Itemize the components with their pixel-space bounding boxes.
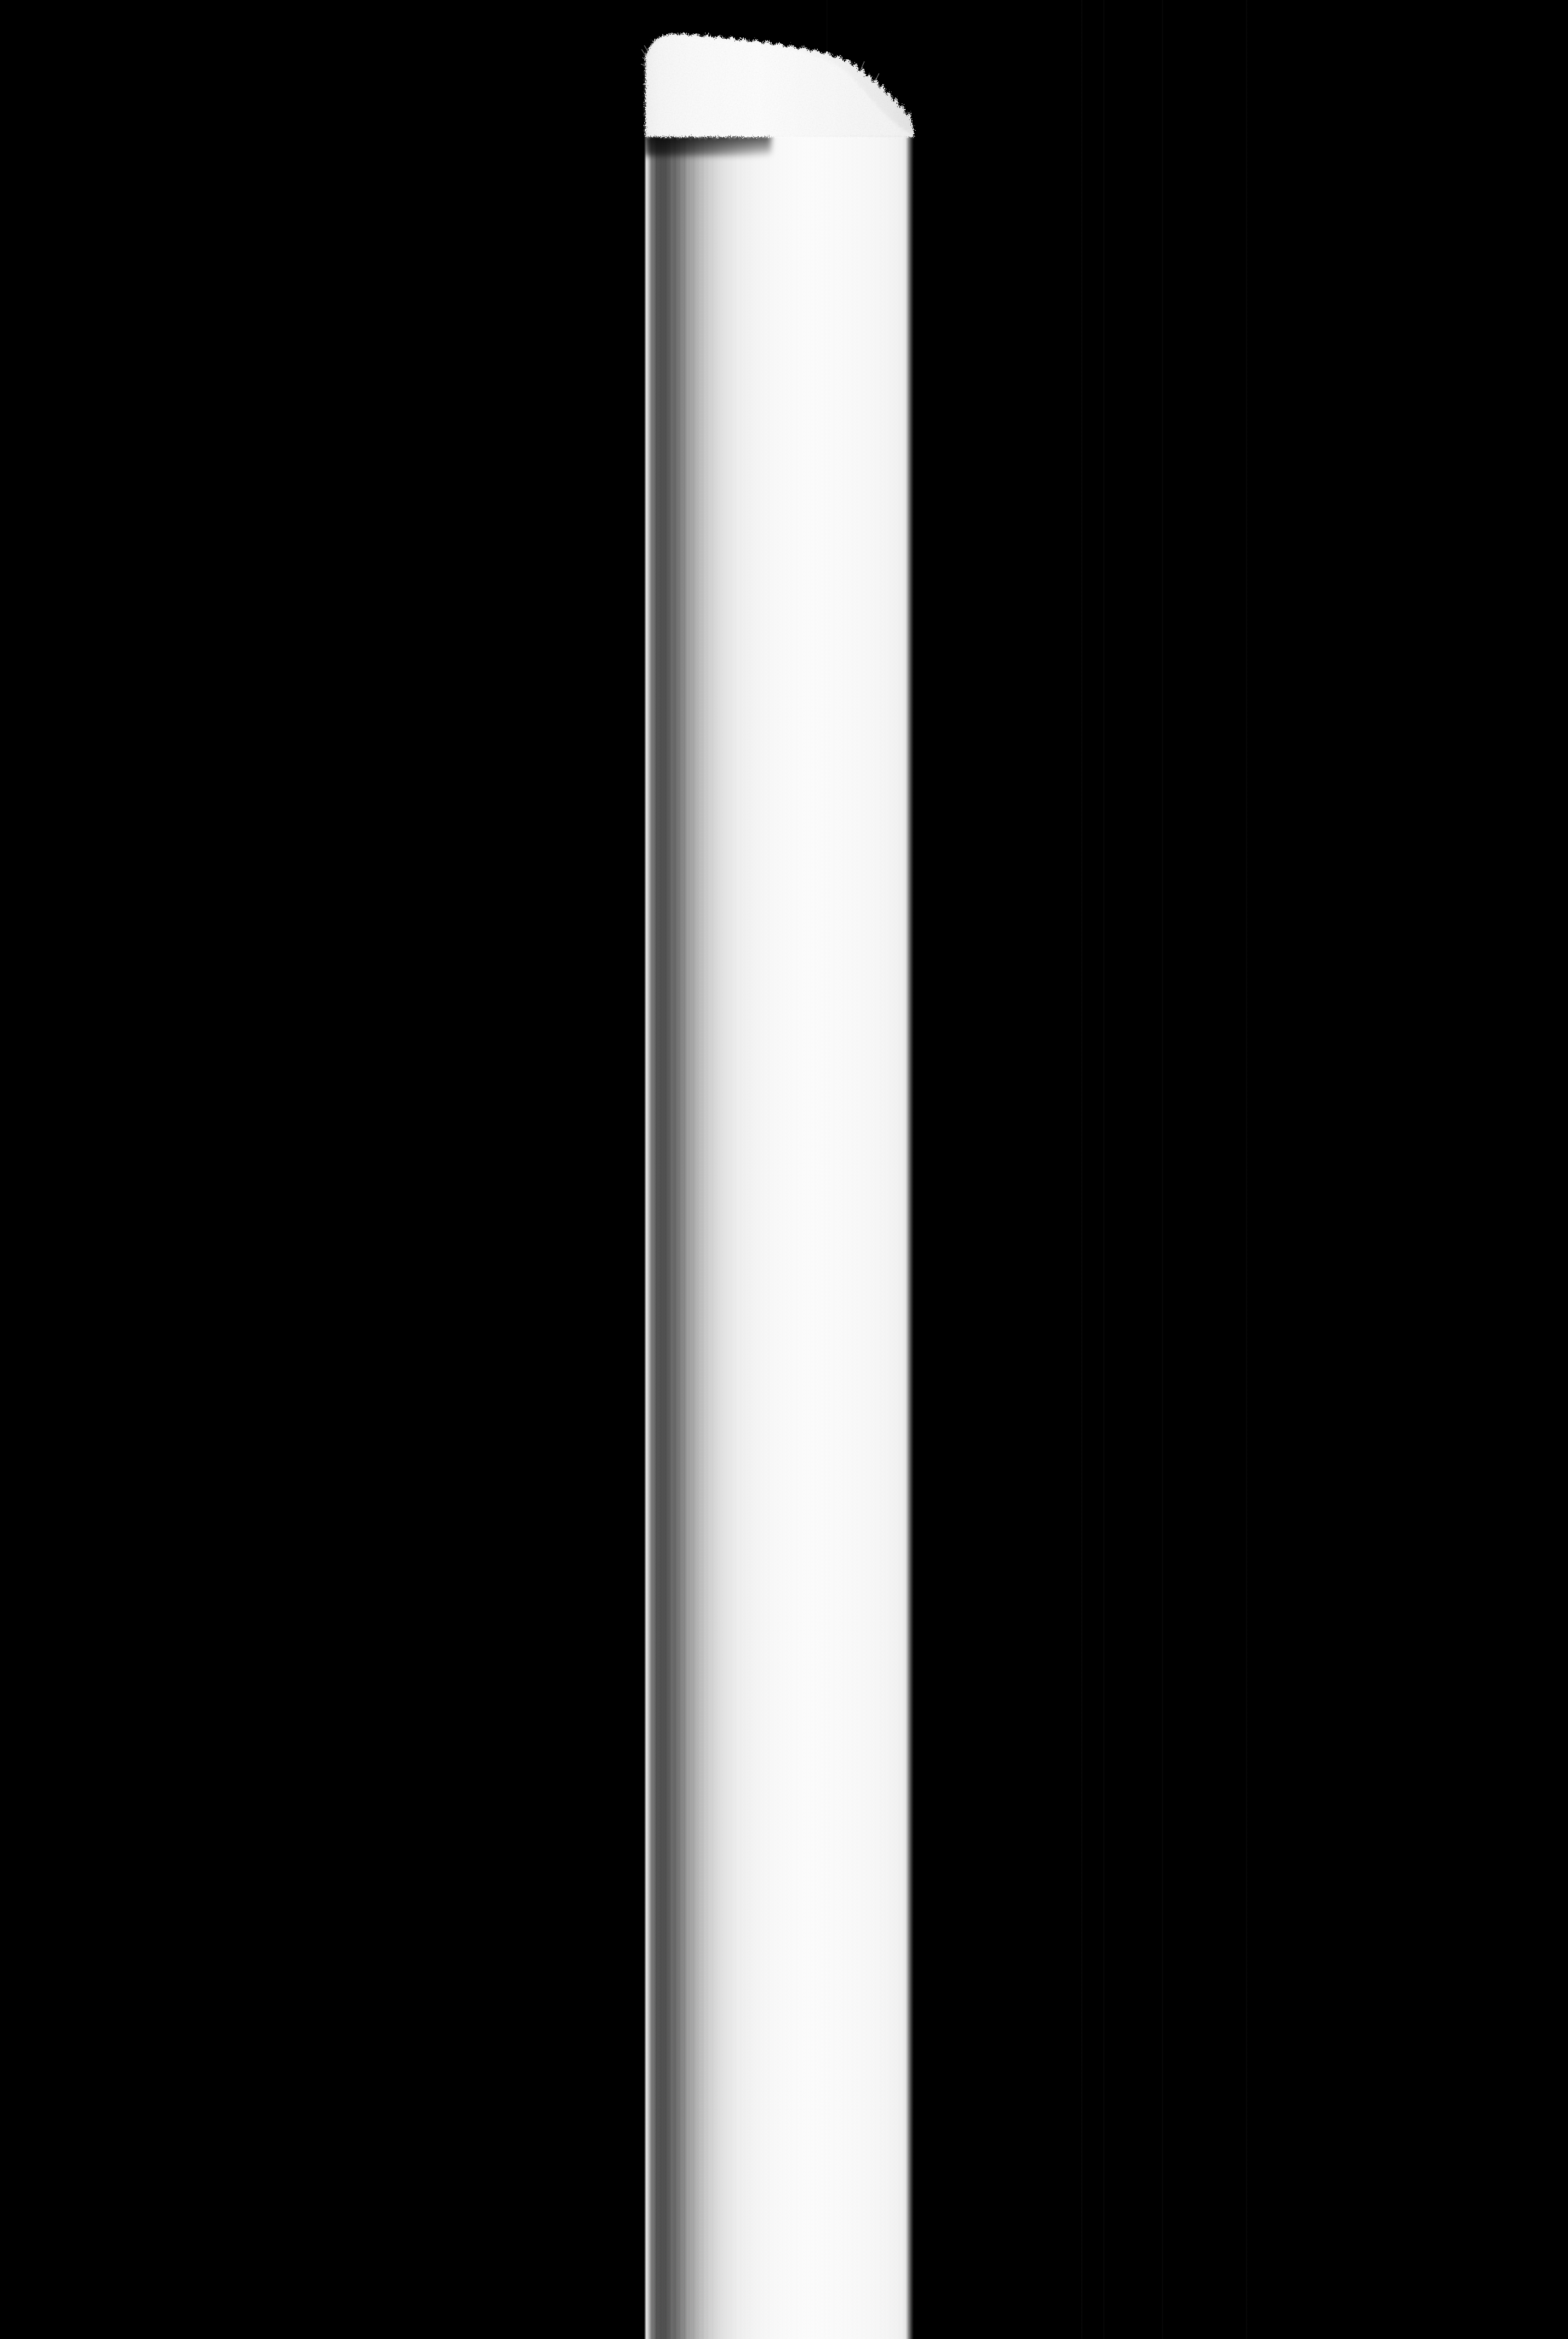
vertical-column [640,0,915,2339]
photograph-canvas: A tall narrow white cylindrical object l… [0,0,1568,2339]
background-scan-line-4 [1162,0,1163,2339]
background-scan-line-2 [1081,0,1082,2339]
background-scan-line-3 [1103,0,1104,2339]
background-scan-line-5 [1246,0,1247,2339]
fibrous-cap-shape [640,20,915,137]
motion-blur-striations [640,124,915,2339]
image-title: Vertical white column on black backgroun… [0,0,1,1]
image-alt-text: A tall narrow white cylindrical object l… [0,0,1,1]
fibrous-cap [640,20,915,130]
